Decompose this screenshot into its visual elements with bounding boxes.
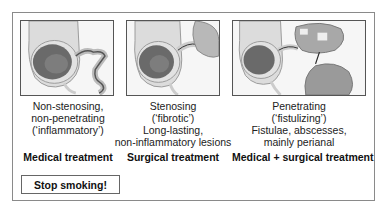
caption-line: Stenosing: [113, 100, 233, 112]
caption-penetrating: Penetrating (‘fistulizing’) Fistulae, ab…: [232, 100, 366, 148]
caption-line: non-inflammatory lesions: [113, 136, 233, 148]
colon-stenosing-icon: [127, 21, 219, 95]
caption-line: Non-stenosing,: [12, 100, 124, 112]
colon-inflammatory-icon: [21, 21, 113, 95]
colon-penetrating-icon: [233, 21, 365, 95]
caption-line: (‘fistulizing’): [232, 112, 366, 124]
caption-inflammatory: Non-stenosing, non-penetrating (‘inflamm…: [12, 100, 124, 136]
illustration-stenosing: [126, 20, 220, 96]
stop-smoking-label: Stop smoking!: [34, 179, 107, 191]
caption-line: Fistulae, abscesses,: [232, 124, 366, 136]
treatment-medical: Medical treatment: [12, 151, 124, 163]
caption-line: Penetrating: [232, 100, 366, 112]
treatment-surgical: Surgical treatment: [113, 151, 233, 163]
caption-line: mainly perianal: [232, 136, 366, 148]
treatment-medical-surgical: Medical + surgical treatment: [232, 151, 366, 163]
stop-smoking-box: Stop smoking!: [21, 175, 120, 194]
caption-line: Long-lasting,: [113, 124, 233, 136]
illustration-penetrating: [232, 20, 366, 96]
illustration-inflammatory: [20, 20, 114, 96]
caption-line: (‘inflammatory’): [12, 124, 124, 136]
caption-stenosing: Stenosing (‘fibrotic’) Long-lasting, non…: [113, 100, 233, 148]
caption-line: (‘fibrotic’): [113, 112, 233, 124]
caption-line: non-penetrating: [12, 112, 124, 124]
